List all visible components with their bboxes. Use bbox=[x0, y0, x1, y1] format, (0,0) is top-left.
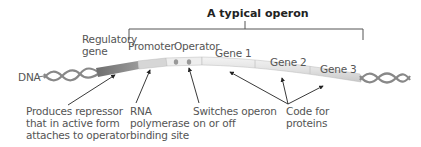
annotation-line: Produces repressor bbox=[26, 105, 130, 117]
annotation-line: attaches to operator bbox=[26, 129, 130, 141]
gene-2-label: Gene 2 bbox=[270, 56, 307, 68]
annotation-line: on or off bbox=[193, 117, 277, 129]
operator-annotation: Switches operon on or off bbox=[193, 105, 277, 129]
promoter-label: Promoter bbox=[128, 40, 175, 52]
dna-helix-right-icon bbox=[360, 74, 410, 83]
annotation-line: that in active form bbox=[26, 117, 130, 129]
operator-segment bbox=[166, 57, 202, 66]
operator-site-mark bbox=[174, 59, 178, 65]
dna-helix-left-icon bbox=[44, 69, 98, 81]
operon-bracket bbox=[129, 21, 363, 40]
annotation-line: Switches operon bbox=[193, 105, 277, 117]
annotation-line: binding site bbox=[130, 129, 190, 141]
genes-annotation: Code for proteins bbox=[286, 105, 329, 129]
promoter-annotation: RNA polymerase binding site bbox=[130, 105, 190, 141]
operator-site-mark bbox=[187, 59, 191, 65]
regulatory-annotation: Produces repressor that in active form a… bbox=[26, 105, 130, 141]
gene-3-label: Gene 3 bbox=[320, 63, 357, 75]
annotation-line: proteins bbox=[286, 117, 329, 129]
annotation-line: polymerase bbox=[130, 117, 190, 129]
annotation-line: Code for bbox=[286, 105, 329, 117]
operon-title: A typical operon bbox=[207, 7, 309, 20]
regulatory-gene-segment bbox=[96, 61, 139, 77]
annotation-line: RNA bbox=[130, 105, 190, 117]
dna-label: DNA bbox=[18, 71, 41, 83]
gene-1-label: Gene 1 bbox=[215, 47, 252, 59]
operator-label: Operator bbox=[174, 40, 219, 52]
promoter-segment bbox=[138, 58, 167, 69]
